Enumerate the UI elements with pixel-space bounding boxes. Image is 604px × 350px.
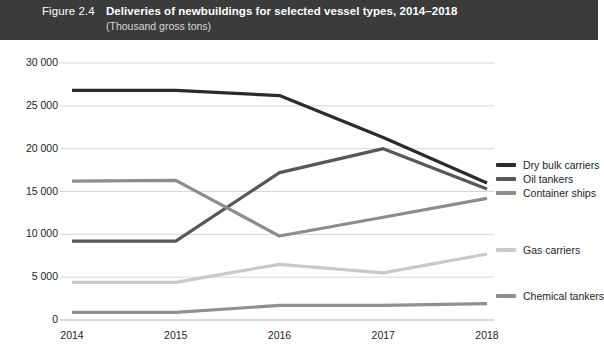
series-line [72,180,487,236]
legend-item[interactable]: Dry bulk carriers [496,159,599,171]
legend-item[interactable]: Oil tankers [496,173,573,185]
legend-item[interactable]: Gas carriers [496,244,580,256]
figure-subtitle: (Thousand gross tons) [106,20,211,32]
x-axis-tick-label: 2016 [250,329,310,341]
series-line [72,149,487,242]
legend-label: Dry bulk carriers [523,159,599,171]
series-line [72,90,487,183]
figure-header-band: Figure 2.4 Deliveries of newbuildings fo… [0,0,598,40]
series-line [72,254,487,282]
figure-number: Figure 2.4 [42,5,95,17]
x-axis-tick-label: 2015 [146,329,206,341]
y-axis-tick-label: 30 000 [0,56,58,68]
legend-label: Oil tankers [523,173,573,185]
y-axis-tick-label: 25 000 [0,99,58,111]
legend-color-swatch [496,294,516,298]
legend-item[interactable]: Container ships [496,187,596,199]
legend-color-swatch [496,163,516,167]
legend-label: Chemical tankers [523,290,604,302]
legend-label: Gas carriers [523,244,580,256]
legend-color-swatch [496,177,516,181]
legend-color-swatch [496,191,516,195]
legend-color-swatch [496,248,516,252]
figure-title: Deliveries of newbuildings for selected … [106,5,458,17]
y-axis-tick-label: 15 000 [0,185,58,197]
legend-label: Container ships [523,187,596,199]
series-line [72,304,487,313]
legend-item[interactable]: Chemical tankers [496,290,604,302]
y-axis-tick-label: 10 000 [0,227,58,239]
x-axis-tick-label: 2017 [353,329,413,341]
chart-plot-area: 30 00025 00020 00015 00010 0005 0000 201… [0,40,598,350]
y-axis-tick-label: 20 000 [0,142,58,154]
y-axis-tick-label: 5 000 [0,270,58,282]
y-axis-tick-label: 0 [0,313,58,325]
x-axis-tick-label: 2018 [457,329,517,341]
x-axis-tick-label: 2014 [42,329,102,341]
